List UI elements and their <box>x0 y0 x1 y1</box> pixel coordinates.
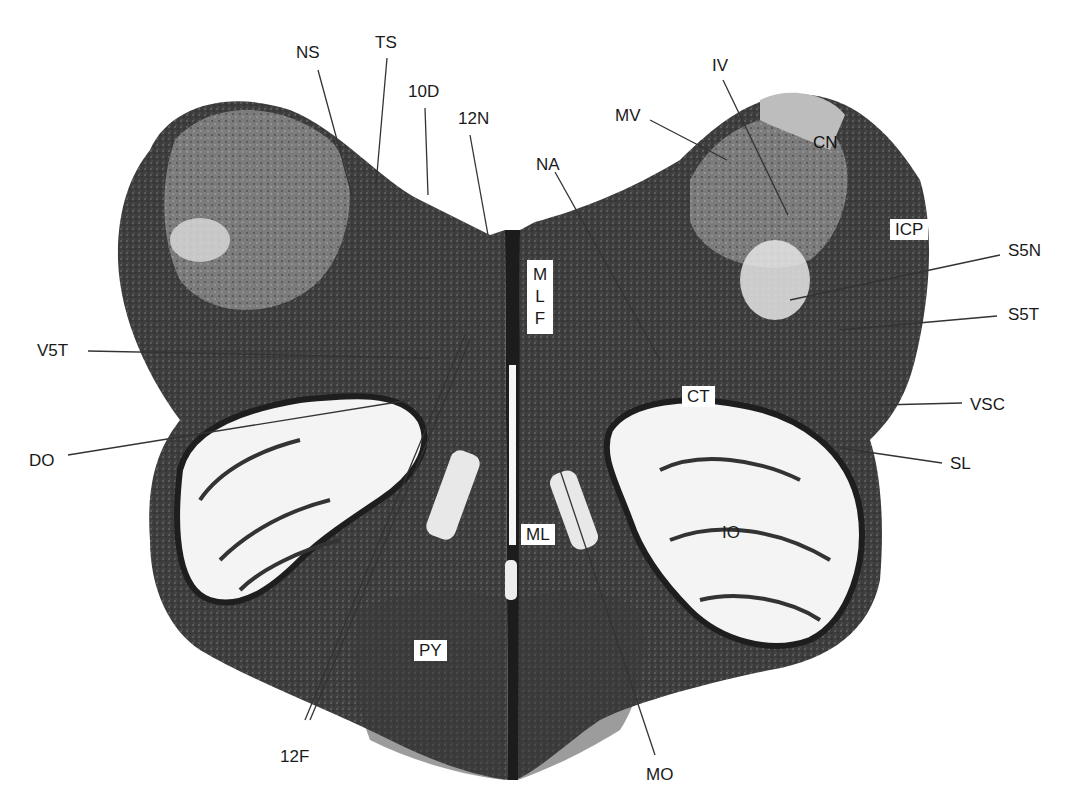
label-mo: MO <box>646 766 673 783</box>
tissue-section-image <box>0 0 1083 801</box>
label-na: NA <box>536 156 560 173</box>
label-mlf-l: L <box>533 286 547 308</box>
label-12f: 12F <box>280 748 309 765</box>
label-iv: IV <box>712 57 728 74</box>
label-ts: TS <box>375 34 397 51</box>
label-cn: CN <box>813 134 838 151</box>
label-ct: CT <box>682 386 715 407</box>
label-ml: ML <box>521 524 555 545</box>
label-12n: 12N <box>458 110 489 127</box>
label-mlf: M L F <box>527 260 553 334</box>
label-s5t: S5T <box>1008 306 1039 323</box>
label-mv: MV <box>615 107 641 124</box>
label-sl: SL <box>950 455 971 472</box>
label-do: DO <box>29 452 55 469</box>
label-mlf-m: M <box>533 264 547 286</box>
label-ns: NS <box>296 44 320 61</box>
medulla-section-figure: NS TS 10D 12N NA MV IV CN ICP S5N S5T VS… <box>0 0 1083 801</box>
label-v5t: V5T <box>37 342 68 359</box>
label-s5n: S5N <box>1008 242 1041 259</box>
label-icp: ICP <box>890 219 928 240</box>
label-py: PY <box>414 640 447 661</box>
label-vsc: VSC <box>970 396 1005 413</box>
label-10d: 10D <box>408 83 439 100</box>
label-io: IO <box>722 524 740 541</box>
label-mlf-f: F <box>533 308 547 330</box>
